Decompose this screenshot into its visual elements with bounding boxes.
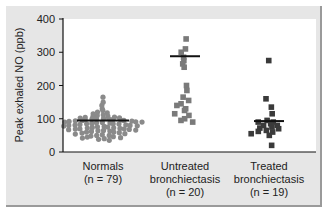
data-point: [61, 123, 66, 128]
data-point: [180, 94, 186, 100]
data-point: [100, 95, 105, 100]
data-point: [95, 128, 100, 133]
data-point: [263, 96, 269, 102]
y-axis-title: Peak exhaled NO (ppb): [13, 28, 25, 143]
y-tick-label: 0: [49, 146, 55, 158]
data-point: [174, 103, 180, 109]
x-category-label: (n = 19): [250, 186, 288, 198]
data-point: [127, 127, 132, 132]
data-point: [264, 128, 270, 134]
data-point: [178, 118, 184, 124]
data-point: [269, 124, 275, 130]
data-point: [133, 127, 138, 132]
data-point: [117, 130, 122, 135]
data-point: [255, 129, 261, 135]
data-point: [183, 36, 189, 42]
y-tick-label: 100: [37, 113, 55, 125]
data-point: [181, 64, 187, 70]
data-point: [266, 133, 272, 139]
data-point: [102, 136, 107, 141]
y-tick-label: 200: [37, 80, 55, 92]
data-point: [85, 134, 90, 139]
data-point: [178, 49, 184, 55]
scatter-chart: 0100200300400 Peak exhaled NO (ppb) Norm…: [0, 0, 329, 213]
y-tick-label: 400: [37, 13, 55, 25]
data-point: [116, 121, 121, 126]
x-category-label: Normals: [83, 160, 124, 172]
data-point: [122, 131, 127, 136]
data-point: [66, 127, 71, 132]
data-point: [269, 111, 275, 117]
x-category-label: bronchiectasis: [150, 173, 221, 185]
x-category-label: (n = 79): [84, 173, 122, 185]
data-point: [79, 130, 84, 135]
data-point: [111, 129, 116, 134]
data-point: [269, 143, 275, 149]
x-category-label: (n = 20): [166, 186, 204, 198]
y-tick-label: 300: [37, 46, 55, 58]
data-point: [111, 134, 116, 139]
data-point: [73, 131, 78, 136]
x-axis-category-labels: Normals(n = 79)Untreatedbronchiectasis(n…: [83, 160, 305, 198]
data-point: [107, 138, 112, 143]
y-axis-ticks: 0100200300400: [37, 13, 63, 158]
data-point: [182, 108, 188, 114]
data-point: [73, 126, 78, 131]
data-point: [190, 119, 196, 125]
plot-area: [63, 19, 316, 152]
x-category-label: bronchiectasis: [234, 173, 305, 185]
data-point: [184, 83, 190, 89]
x-category-label: Untreated: [161, 160, 209, 172]
data-point: [96, 137, 101, 142]
data-point: [139, 119, 144, 124]
data-point: [266, 58, 272, 64]
data-point: [276, 126, 282, 132]
data-point: [118, 135, 123, 140]
data-point: [248, 131, 254, 137]
data-point: [184, 88, 190, 94]
data-point: [186, 98, 192, 104]
data-point: [269, 104, 275, 110]
x-category-label: Treated: [250, 160, 288, 172]
data-point: [122, 126, 127, 131]
data-point: [84, 129, 89, 134]
data-point: [89, 129, 94, 134]
data-point: [172, 111, 178, 117]
data-point: [80, 135, 85, 140]
